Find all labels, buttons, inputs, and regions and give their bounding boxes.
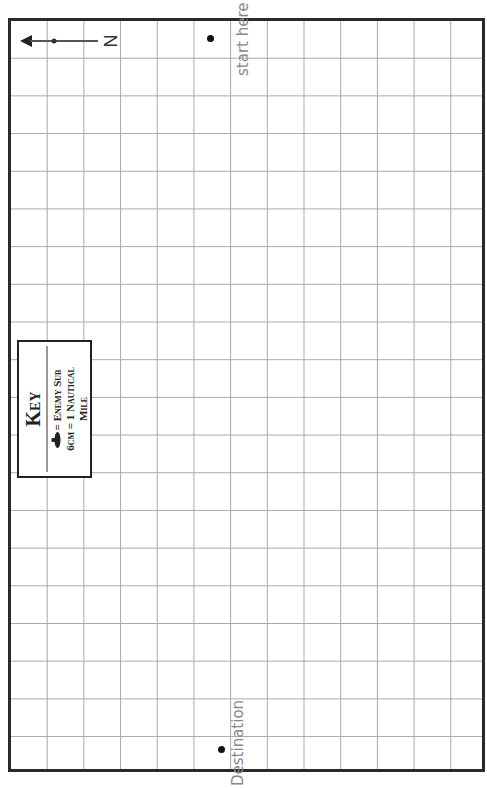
start-point	[207, 35, 214, 42]
start-label: start here	[234, 2, 252, 76]
key-title: Key	[21, 392, 43, 427]
north-label: N	[99, 33, 121, 49]
destination-label: Destination	[229, 700, 247, 786]
submarine-icon	[54, 432, 60, 448]
key-scale-unit: Mile	[76, 397, 89, 421]
key-scale: 6cm = 1 Nautical	[63, 367, 76, 451]
map-key: Key = Enemy Sub 6cm = 1 Nautical Mile	[17, 340, 92, 478]
enemy-sub-text: = Enemy Sub	[50, 370, 62, 431]
destination-point	[218, 746, 225, 753]
north-compass: N	[18, 30, 118, 52]
key-divider	[46, 346, 47, 472]
key-enemy-sub: = Enemy Sub	[50, 370, 63, 449]
north-arrow-icon	[18, 30, 98, 52]
